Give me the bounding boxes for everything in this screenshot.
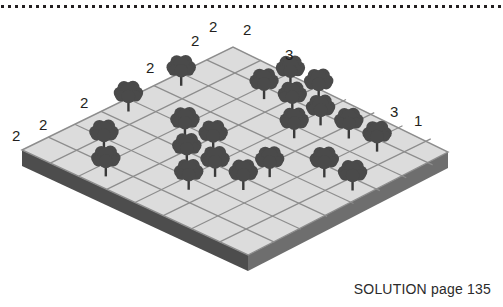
clue-right-2: 1 — [414, 113, 422, 128]
clue-left-outer: 2 — [12, 128, 20, 143]
clue-top-peak-left: 2 — [191, 33, 199, 48]
clue-top-peak-right: 2 — [243, 22, 251, 37]
puzzle-page: 2222222331 SOLUTION page 135 — [0, 0, 503, 307]
clue-top-right-1: 3 — [285, 47, 293, 62]
clue-left-2: 2 — [39, 117, 47, 132]
solution-note: SOLUTION page 135 — [354, 281, 491, 297]
clue-right-1: 3 — [390, 104, 398, 119]
clue-left-3: 2 — [80, 95, 88, 110]
isometric-board — [0, 0, 503, 307]
clue-top-left-1: 2 — [146, 60, 154, 75]
clue-top-peak-mid: 2 — [209, 19, 217, 34]
